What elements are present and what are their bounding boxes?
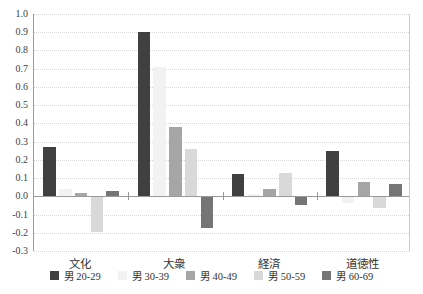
gridline — [34, 105, 409, 106]
bar-大衆-男 30-39 — [153, 67, 166, 196]
bar-文化-男 40-49 — [75, 193, 88, 197]
bar-道徳性-男 30-39 — [342, 197, 355, 202]
legend-swatch-icon — [254, 271, 263, 280]
bar-経済-男 30-39 — [248, 194, 261, 196]
y-tick-label: 0.2 — [2, 155, 28, 165]
bar-道徳性-男 40-49 — [358, 182, 371, 197]
bar-大衆-男 60-69 — [201, 197, 214, 228]
y-tick-label: 0.9 — [2, 27, 28, 37]
y-tick-label: -0.1 — [2, 210, 28, 220]
legend-item: 男 50-59 — [254, 268, 305, 283]
gridline — [34, 50, 409, 51]
y-tick-label: 0.1 — [2, 173, 28, 183]
y-tick-label: 0.7 — [2, 64, 28, 74]
bar-経済-男 40-49 — [263, 189, 276, 196]
y-tick-label: 0.3 — [2, 137, 28, 147]
y-tick-label: 1.0 — [2, 9, 28, 19]
legend-swatch-icon — [186, 271, 195, 280]
bar-道徳性-男 60-69 — [389, 184, 402, 197]
legend: 男 20-29男 30-39男 40-49男 50-59男 60-69 — [0, 268, 423, 283]
legend-swatch-icon — [322, 271, 331, 280]
bar-経済-男 20-29 — [232, 174, 245, 196]
y-tick-label: 0.0 — [2, 191, 28, 201]
bar-文化-男 50-59 — [91, 197, 104, 232]
bar-経済-男 50-59 — [279, 173, 292, 197]
legend-item: 男 30-39 — [118, 268, 169, 283]
legend-swatch-icon — [118, 271, 127, 280]
category-axis-tick — [317, 192, 318, 200]
legend-label: 男 40-49 — [200, 268, 237, 283]
legend-label: 男 50-59 — [268, 268, 305, 283]
legend-label: 男 30-39 — [132, 268, 169, 283]
y-tick-label: 0.6 — [2, 82, 28, 92]
y-tick-label: 0.4 — [2, 118, 28, 128]
gridline — [34, 14, 409, 15]
bar-大衆-男 50-59 — [185, 149, 198, 196]
y-tick-label: 0.8 — [2, 45, 28, 55]
gridline — [34, 87, 409, 88]
bar-文化-男 30-39 — [59, 189, 72, 196]
plot-area — [33, 14, 410, 251]
y-tick-label: -0.2 — [2, 228, 28, 238]
legend-item: 男 20-29 — [50, 268, 101, 283]
bar-道徳性-男 20-29 — [326, 151, 339, 197]
gridline — [34, 251, 409, 252]
bar-文化-男 20-29 — [43, 147, 56, 196]
legend-label: 男 60-69 — [336, 268, 373, 283]
legend-item: 男 60-69 — [322, 268, 373, 283]
category-axis-tick — [223, 192, 224, 200]
gridline — [34, 32, 409, 33]
gridline — [34, 142, 409, 143]
legend-item: 男 40-49 — [186, 268, 237, 283]
gridline — [34, 160, 409, 161]
y-tick-label: 0.5 — [2, 100, 28, 110]
bar-大衆-男 40-49 — [169, 127, 182, 196]
bar-道徳性-男 50-59 — [373, 197, 386, 208]
bar-大衆-男 20-29 — [138, 32, 151, 196]
gridline — [34, 69, 409, 70]
gridline — [34, 233, 409, 234]
gridline — [34, 178, 409, 179]
category-axis-tick — [128, 192, 129, 200]
y-tick-label: -0.3 — [2, 246, 28, 256]
gridline — [34, 123, 409, 124]
chart-figure: 1.00.90.80.70.60.50.40.30.20.10.0-0.1-0.… — [0, 0, 423, 294]
legend-label: 男 20-29 — [64, 268, 101, 283]
bar-経済-男 60-69 — [295, 197, 308, 204]
legend-swatch-icon — [50, 271, 59, 280]
bar-文化-男 60-69 — [106, 191, 119, 196]
